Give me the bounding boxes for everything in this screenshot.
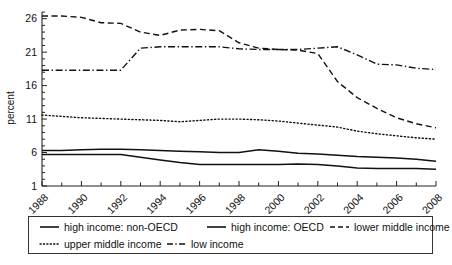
legend-label-high-income-oecd: high income: OECD: [231, 221, 324, 233]
x-tick-label-2002: 2002: [301, 191, 326, 216]
x-tick-label-1998: 1998: [222, 191, 247, 216]
x-tick-label-1996: 1996: [183, 191, 208, 216]
series-line-upper-middle-income: [42, 115, 436, 139]
y-tick-label-26: 26: [25, 12, 37, 24]
x-tick-label-2000: 2000: [262, 191, 287, 216]
x-tick-label-1992: 1992: [104, 191, 129, 216]
legend-label-low-income: low income: [191, 238, 244, 250]
x-tick-label-2008: 2008: [419, 191, 444, 216]
y-tick-label-16: 16: [25, 79, 37, 91]
x-tick-label-2004: 2004: [341, 191, 366, 216]
y-axis-ticks: 1611162126: [25, 12, 47, 192]
chart-legend: high income: non-OECDhigh income: OECDlo…: [29, 217, 450, 254]
series-lines: [42, 16, 436, 169]
legend-label-lower-middle-income: lower middle income: [354, 221, 450, 233]
y-axis-title-group: percent: [5, 91, 16, 125]
x-tick-label-1990: 1990: [65, 191, 90, 216]
line-chart: percent 1611162126 198819901992199419961…: [0, 0, 452, 265]
chart-container: percent 1611162126 198819901992199419961…: [0, 0, 452, 265]
y-tick-label-1: 1: [31, 180, 37, 192]
x-tick-label-1994: 1994: [144, 191, 169, 216]
x-tick-label-1988: 1988: [25, 191, 50, 216]
legend-label-high-income-non-oecd: high income: non-OECD: [64, 221, 178, 233]
series-line-low-income: [42, 47, 436, 70]
series-line-lower-middle-income: [42, 16, 436, 128]
y-tick-label-11: 11: [26, 113, 37, 125]
x-tick-label-2006: 2006: [380, 191, 405, 216]
y-tick-label-21: 21: [25, 46, 37, 58]
y-axis-title: percent: [5, 91, 16, 125]
legend-label-upper-middle-income: upper middle income: [64, 238, 162, 250]
y-tick-label-6: 6: [31, 146, 37, 158]
